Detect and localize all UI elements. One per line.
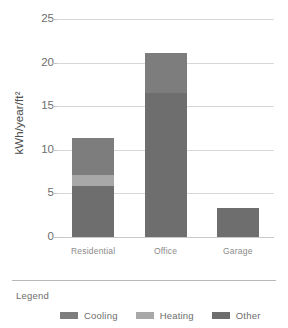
legend-item[interactable]: Heating [136,310,194,321]
bar-segment-cooling[interactable] [72,138,114,175]
legend-item[interactable]: Cooling [60,310,118,321]
legend-swatch-icon [212,312,230,319]
bar-segment-heating[interactable] [72,175,114,185]
energy-use-bar-chart: kWh/year/ft² 2520151050 ResidentialOffic… [0,0,288,328]
legend-title: Legend [16,290,49,301]
legend-label: Heating [160,310,194,321]
legend-swatch-icon [60,312,78,319]
y-axis-title-label: kWh/year/ft² [13,91,25,154]
bar-segment-other[interactable] [145,93,187,237]
legend-label: Cooling [84,310,118,321]
x-axis-tick-labels: ResidentialOfficeGarage [57,243,274,263]
y-axis-tick-labels: 2520151050 [26,0,54,245]
x-tick-label: Residential [71,246,115,256]
x-tick-label: Garage [223,246,253,256]
legend-item[interactable]: Other [212,310,261,321]
legend-divider [12,280,276,281]
bar-segment-cooling[interactable] [145,53,187,93]
bar-group[interactable] [217,208,259,237]
legend-items: CoolingHeatingOther [60,310,280,321]
bar-group[interactable] [72,138,114,237]
x-tick-label: Office [154,246,177,256]
bar-stack [72,138,114,237]
legend-label: Other [236,310,261,321]
legend-panel: Legend CoolingHeatingOther [0,266,288,328]
bar-group[interactable] [145,53,187,237]
legend-swatch-icon [136,312,154,319]
bars-layer [57,0,274,245]
plot-region: kWh/year/ft² 2520151050 ResidentialOffic… [0,0,288,266]
bar-segment-other[interactable] [217,208,259,237]
bar-segment-other[interactable] [72,186,114,237]
bar-stack [217,208,259,237]
bar-stack [145,53,187,237]
